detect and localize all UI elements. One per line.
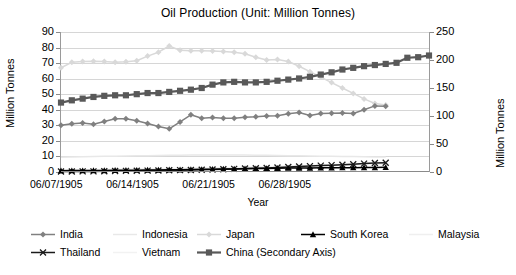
data-point-marker bbox=[329, 69, 335, 75]
x-tick-label: 06/07/1905 bbox=[30, 178, 83, 190]
data-point-marker bbox=[123, 92, 129, 98]
data-point-marker bbox=[393, 60, 399, 66]
secondary-y-tick-label: 50 bbox=[436, 138, 476, 149]
series-indonesia bbox=[61, 155, 386, 157]
legend-item-thailand[interactable]: Thailand bbox=[30, 244, 100, 260]
legend-item-south-korea[interactable]: South Korea bbox=[300, 226, 388, 242]
data-point-marker bbox=[220, 115, 226, 121]
legend-label: Thailand bbox=[60, 246, 100, 258]
series-japan bbox=[58, 43, 389, 108]
legend-item-china-secondary-axis[interactable]: China (Secondary Axis) bbox=[196, 244, 336, 260]
primary-y-tick-label: 80 bbox=[16, 42, 54, 53]
data-point-marker bbox=[231, 115, 237, 121]
secondary-y-tick-mark bbox=[430, 116, 434, 117]
data-point-marker bbox=[199, 85, 205, 91]
data-point-marker bbox=[350, 90, 356, 96]
primary-y-tick-label: 70 bbox=[16, 57, 54, 68]
data-point-marker bbox=[426, 52, 432, 58]
primary-y-tick-label: 60 bbox=[16, 73, 54, 84]
data-point-marker bbox=[177, 47, 183, 53]
data-point-marker bbox=[210, 48, 216, 54]
legend-item-vietnam[interactable]: Vietnam bbox=[112, 244, 180, 260]
legend-label: Malaysia bbox=[438, 228, 479, 240]
data-point-marker bbox=[58, 122, 64, 128]
data-point-marker bbox=[199, 115, 205, 121]
legend-item-japan[interactable]: Japan bbox=[196, 226, 255, 242]
x-tick-label: 06/21/1905 bbox=[182, 178, 235, 190]
legend-swatch-icon bbox=[112, 229, 138, 240]
data-point-marker bbox=[285, 59, 291, 65]
data-point-marker bbox=[383, 61, 389, 67]
data-point-marker bbox=[361, 96, 367, 102]
data-point-marker bbox=[264, 113, 270, 119]
legend-label: India bbox=[60, 228, 83, 240]
data-point-marker bbox=[285, 111, 291, 117]
data-point-marker bbox=[339, 85, 345, 91]
legend-key-line-plain bbox=[408, 229, 434, 240]
x-axis-title: Year bbox=[0, 196, 516, 208]
data-point-marker bbox=[134, 91, 140, 97]
series-layer bbox=[61, 32, 429, 172]
legend-label: South Korea bbox=[330, 228, 388, 240]
chart-title: Oil Production (Unit: Million Tonnes) bbox=[0, 6, 516, 20]
legend-swatch-icon bbox=[30, 247, 56, 258]
legend-item-malaysia[interactable]: Malaysia bbox=[408, 226, 479, 242]
x-axis-line bbox=[61, 171, 429, 172]
data-point-marker bbox=[40, 231, 46, 237]
data-point-marker bbox=[80, 120, 86, 126]
data-point-marker bbox=[296, 63, 302, 69]
data-point-marker bbox=[123, 116, 129, 122]
data-point-marker bbox=[253, 54, 259, 60]
legend-item-india[interactable]: India bbox=[30, 226, 83, 242]
legend-swatch-icon bbox=[112, 247, 138, 258]
secondary-y-tick-mark bbox=[430, 60, 434, 61]
data-point-marker bbox=[242, 79, 248, 85]
legend-label: Vietnam bbox=[142, 246, 180, 258]
secondary-y-tick-mark bbox=[430, 32, 434, 33]
data-point-marker bbox=[231, 49, 237, 55]
secondary-y-tick-label: 250 bbox=[436, 26, 476, 37]
legend-key-line-marker-triangle bbox=[300, 229, 326, 240]
data-point-marker bbox=[274, 57, 280, 63]
data-point-marker bbox=[242, 114, 248, 120]
legend-swatch-icon bbox=[408, 229, 434, 240]
data-point-marker bbox=[339, 110, 345, 116]
data-point-marker bbox=[404, 55, 410, 61]
data-point-marker bbox=[101, 93, 107, 99]
legend-key-line-marker-square bbox=[196, 247, 222, 258]
data-point-marker bbox=[112, 92, 118, 98]
data-point-marker bbox=[145, 120, 151, 126]
data-point-marker bbox=[372, 62, 378, 68]
data-point-marker bbox=[69, 97, 75, 103]
secondary-y-tick-mark bbox=[430, 172, 434, 173]
data-point-marker bbox=[231, 79, 237, 85]
data-point-marker bbox=[188, 87, 194, 93]
primary-y-tick-label: 10 bbox=[16, 150, 54, 161]
data-point-marker bbox=[339, 66, 345, 72]
data-point-marker bbox=[350, 65, 356, 71]
legend-label: China (Secondary Axis) bbox=[226, 246, 336, 258]
secondary-y-tick-label: 0 bbox=[436, 166, 476, 177]
legend-item-indonesia[interactable]: Indonesia bbox=[112, 226, 188, 242]
data-point-marker bbox=[318, 111, 324, 117]
data-point-marker bbox=[296, 110, 302, 116]
data-point-marker bbox=[361, 107, 367, 113]
secondary-y-tick-label: 200 bbox=[436, 54, 476, 65]
data-point-marker bbox=[134, 58, 140, 64]
data-point-marker bbox=[220, 48, 226, 54]
data-point-marker bbox=[253, 79, 259, 85]
data-point-marker bbox=[90, 94, 96, 100]
data-point-marker bbox=[58, 65, 64, 71]
data-point-marker bbox=[166, 43, 172, 49]
data-point-marker bbox=[112, 116, 118, 122]
data-point-marker bbox=[80, 59, 86, 65]
primary-y-tick-label: 0 bbox=[16, 166, 54, 177]
data-point-marker bbox=[307, 74, 313, 80]
data-point-marker bbox=[155, 123, 161, 129]
data-point-marker bbox=[69, 59, 75, 65]
data-point-marker bbox=[69, 121, 75, 127]
secondary-y-axis-title: Million Tonnes bbox=[494, 98, 506, 168]
data-point-marker bbox=[166, 89, 172, 95]
legend-row: IndiaIndonesiaJapanSouth KoreaMalaysia bbox=[0, 226, 516, 242]
legend-row: ThailandVietnamChina (Secondary Axis) bbox=[0, 244, 516, 260]
